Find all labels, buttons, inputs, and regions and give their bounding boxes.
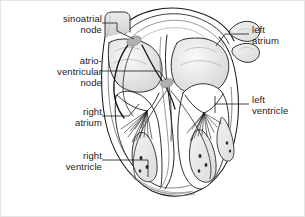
label-left-ventricle: left ventricle: [252, 94, 305, 116]
label-right-ventricle: right ventricle: [9, 150, 102, 172]
heart-conduction-diagram: sinoatrial node atrio- ventricular node …: [0, 0, 305, 217]
label-left-atrium: left atrium: [252, 24, 304, 46]
label-sinoatrial-node: sinoatrial node: [13, 13, 102, 35]
label-right-atrium: right atrium: [13, 106, 102, 128]
superior-vena-cava: [105, 12, 130, 37]
label-atrioventricular-node: atrio- ventricular node: [5, 55, 102, 88]
